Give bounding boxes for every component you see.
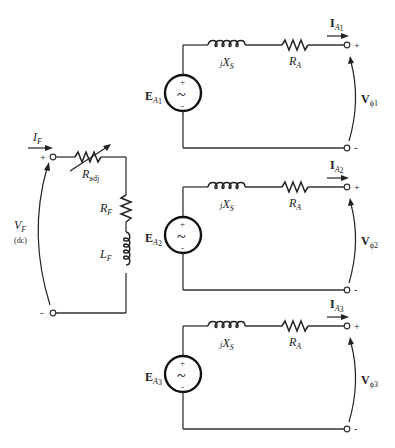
phase-voltage-label: Vϕ3 xyxy=(361,373,378,389)
armature-resistance-label: RA xyxy=(288,54,301,70)
armature-resistor xyxy=(282,321,308,331)
phase-plus-terminal[interactable] xyxy=(344,323,350,329)
phase-minus-sign: - xyxy=(354,142,357,153)
armature-current-label: IA2 xyxy=(330,158,344,175)
source-label: EA1 xyxy=(145,89,162,106)
phase-minus-terminal[interactable] xyxy=(344,145,350,151)
synchronous-reactance-inductor xyxy=(208,41,245,47)
field-circuit: IF + Radj RF LF - VF (dc) xyxy=(14,130,131,318)
phase-voltage-label: Vϕ1 xyxy=(361,92,378,108)
phase-minus-terminal[interactable] xyxy=(344,287,350,293)
armature-current-arrowhead xyxy=(341,33,349,39)
field-voltage-arrowhead xyxy=(44,162,50,171)
armature-resistance-label: RA xyxy=(288,196,301,212)
field-inductor-lf xyxy=(124,232,130,265)
field-resistor-rf xyxy=(121,195,131,222)
field-voltage-label: VF xyxy=(14,218,26,234)
rheostat-adjust-arrowhead xyxy=(103,144,111,151)
rheostat-label: Radj xyxy=(81,167,99,183)
phase-voltage-arrowhead xyxy=(348,198,354,206)
field-inductor-label: LF xyxy=(99,247,112,263)
source-label: EA3 xyxy=(145,370,162,387)
phase-plus-sign: + xyxy=(354,321,360,332)
field-plus-terminal[interactable] xyxy=(50,154,56,160)
field-voltage-note: (dc) xyxy=(14,236,27,245)
phase-minus-sign: - xyxy=(354,284,357,295)
phase-circuit-2: + ~ - EA2 jXS RA IA2 + - Vϕ2 xyxy=(145,158,378,295)
field-minus-sign: - xyxy=(40,307,43,318)
phase-voltage-arc xyxy=(349,204,356,283)
armature-resistor xyxy=(282,40,308,50)
armature-current-arrowhead xyxy=(341,314,349,320)
generator-equivalent-circuit: IF + Radj RF LF - VF (dc) + ~ - xyxy=(0,0,395,448)
field-minus-terminal[interactable] xyxy=(50,310,56,316)
source-minus-sign: - xyxy=(181,101,184,111)
phase-minus-sign: - xyxy=(354,423,357,434)
phase-voltage-label: Vϕ2 xyxy=(361,234,378,250)
source-minus-sign: - xyxy=(181,243,184,253)
armature-resistance-label: RA xyxy=(288,335,301,351)
armature-current-arrowhead xyxy=(341,175,349,181)
phase-plus-terminal[interactable] xyxy=(344,42,350,48)
reactance-label: jXS xyxy=(219,55,234,71)
phase-plus-terminal[interactable] xyxy=(344,184,350,190)
armature-current-label: IA3 xyxy=(330,297,344,314)
armature-current-label: IA1 xyxy=(330,16,344,33)
phase-voltage-arc xyxy=(349,343,356,422)
phase-minus-terminal[interactable] xyxy=(344,426,350,432)
phase-voltage-arrowhead xyxy=(348,56,354,64)
phase-plus-sign: + xyxy=(354,40,360,51)
reactance-label: jXS xyxy=(219,336,234,352)
phase-circuit-1: + ~ - EA1 jXS RA IA1 + - Vϕ1 xyxy=(145,16,378,153)
phase-voltage-arc xyxy=(349,62,356,141)
phase-plus-sign: + xyxy=(354,182,360,193)
reactance-label: jXS xyxy=(219,197,234,213)
armature-resistor xyxy=(282,182,308,192)
synchronous-reactance-inductor xyxy=(208,183,245,189)
field-resistor-label: RF xyxy=(99,201,112,217)
field-current-label: IF xyxy=(32,130,42,146)
phase-circuit-3: + ~ - EA3 jXS RA IA3 + - Vϕ3 xyxy=(145,297,378,434)
field-plus-sign: + xyxy=(40,152,46,163)
source-minus-sign: - xyxy=(181,382,184,392)
source-label: EA2 xyxy=(145,231,162,248)
synchronous-reactance-inductor xyxy=(208,322,245,328)
phase-voltage-arrowhead xyxy=(348,337,354,345)
field-voltage-arc xyxy=(38,168,50,305)
field-current-arrowhead xyxy=(45,145,53,151)
